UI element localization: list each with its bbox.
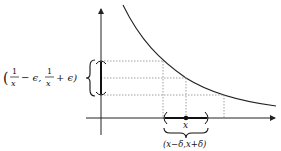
svg-text:(: ( <box>3 70 8 86</box>
curve-one-over-x <box>123 5 276 106</box>
svg-text:+ ϵ): + ϵ) <box>56 72 77 83</box>
svg-text:− ϵ,: − ϵ, <box>21 72 41 83</box>
left-curly-brace <box>86 60 95 96</box>
x-interval-label: (x−δ,x+δ) <box>163 139 206 149</box>
svg-text:1: 1 <box>12 67 17 76</box>
epsilon-delta-diagram: ( 1 x − ϵ, 1 x + ϵ) x (x−δ,x+δ) <box>0 0 281 151</box>
svg-text:1: 1 <box>47 67 52 76</box>
svg-text:x: x <box>11 79 16 88</box>
svg-text:x: x <box>46 79 51 88</box>
y-interval-label: ( 1 x − ϵ, 1 x + ϵ) <box>3 67 77 88</box>
point-x-label: x <box>183 120 188 130</box>
